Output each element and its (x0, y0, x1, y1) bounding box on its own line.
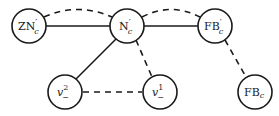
node-zn-c-prime: ZN′c (12, 9, 46, 43)
edge-n-fbp-dashed-arc (142, 10, 200, 18)
edge-zn-n-dashed-arc (44, 10, 112, 18)
edge-n-v2-solid (76, 39, 116, 79)
node-fb-c-prime: FB′c (198, 9, 232, 43)
graph-diagram: ZN′c N′c FB′c v2− v1− FBc (0, 0, 279, 116)
node-v1-minus: v1− (143, 75, 177, 109)
node-fb-c: FBc (238, 75, 272, 109)
edge-n-v1-dashed (136, 40, 152, 77)
node-v2-minus: v2− (48, 75, 82, 109)
node-n-c-prime: N′c (110, 9, 144, 43)
edge-fbp-fb-dashed (225, 40, 246, 77)
